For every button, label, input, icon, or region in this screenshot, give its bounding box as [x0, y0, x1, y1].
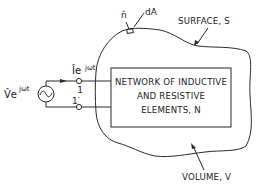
terminal-1prime-label: 1′ [72, 96, 80, 106]
box-text-line-1: NETWORK OF INDUCTIVE [115, 77, 227, 87]
source-voltage-exponent: jωt [18, 85, 30, 93]
current-label: Îe [71, 64, 81, 76]
area-element-icon [127, 29, 133, 34]
da-leader-line [134, 13, 144, 27]
sine-wave-icon [40, 91, 52, 97]
network-diagram: NETWORK OF INDUCTIVE AND RESISTIVE ELEME… [0, 0, 266, 193]
volume-arrow-icon [191, 143, 196, 149]
terminal-1-icon [76, 78, 81, 83]
current-arrow-icon [60, 79, 67, 83]
volume-label: VOLUME, V [182, 172, 231, 182]
normal-label: n̂ [121, 10, 127, 20]
area-label: dA [145, 7, 158, 17]
normal-arrow-icon [126, 22, 129, 29]
terminal-1-label: 1 [77, 85, 83, 95]
box-text-line-3: ELEMENTS, N [141, 105, 201, 115]
box-text-line-2: AND RESISTIVE [137, 91, 205, 101]
volume-leader-line [193, 146, 204, 170]
current-exponent: jωt [84, 64, 96, 72]
source-voltage-label: V̂e [4, 88, 17, 100]
surface-label: SURFACE, S [178, 16, 230, 26]
surface-leader-line [197, 28, 208, 44]
